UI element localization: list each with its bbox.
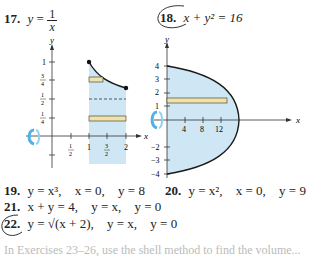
svg-text:−2: −2 xyxy=(151,143,160,152)
svg-text:2: 2 xyxy=(105,151,108,157)
problem-number: 17. xyxy=(4,11,20,26)
svg-text:x: x xyxy=(295,115,300,125)
svg-text:2: 2 xyxy=(69,151,72,157)
svg-text:4: 4 xyxy=(41,81,44,87)
svg-text:1: 1 xyxy=(87,143,91,152)
partial-instruction-line: In Exercises 23–26, use the shell method… xyxy=(4,243,301,258)
svg-text:4: 4 xyxy=(41,119,44,125)
svg-text:4: 4 xyxy=(182,125,186,134)
svg-text:1: 1 xyxy=(41,92,44,98)
svg-text:1: 1 xyxy=(41,111,44,117)
problem-17-header: 17. y = 1 x xyxy=(4,8,57,33)
svg-text:1: 1 xyxy=(155,102,159,111)
problem-20: 20. y = x², x = 0, y = 9 xyxy=(165,183,306,199)
svg-text:8: 8 xyxy=(200,125,204,134)
problem-19: 19. y = x³, x = 0, y = 8 xyxy=(4,183,145,199)
svg-text:y: y xyxy=(164,38,169,44)
equation-lhs: y xyxy=(28,11,34,26)
handwritten-circle xyxy=(154,2,196,32)
svg-text:3: 3 xyxy=(155,75,159,84)
handwritten-circle xyxy=(0,212,30,242)
svg-text:4: 4 xyxy=(155,62,159,71)
svg-text:1: 1 xyxy=(69,143,72,149)
svg-text:1: 1 xyxy=(42,58,46,67)
svg-text:x: x xyxy=(143,131,148,141)
svg-text:−3: −3 xyxy=(151,156,160,165)
svg-text:12: 12 xyxy=(215,125,223,134)
svg-text:3: 3 xyxy=(105,143,108,149)
svg-text:−4: −4 xyxy=(151,170,160,179)
rotation-arrow-icon xyxy=(29,130,39,144)
graph-17: y x 1 34 12 14 12 1 32 2 xyxy=(0,38,150,188)
svg-text:y: y xyxy=(49,38,54,45)
svg-text:2: 2 xyxy=(155,88,159,97)
svg-text:2: 2 xyxy=(124,143,128,152)
fraction: 1 x xyxy=(47,8,57,33)
svg-text:3: 3 xyxy=(41,73,44,79)
svg-text:2: 2 xyxy=(41,100,44,106)
graph-18: y x 4 3 2 1 −2 −3 −4 4 8 12 xyxy=(150,38,311,188)
